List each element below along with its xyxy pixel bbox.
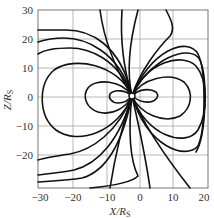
grid-lines — [38, 10, 208, 188]
y-axis-ticks: 30 20 10 0 −10 −20 — [16, 4, 34, 161]
y-tick: −10 — [16, 120, 34, 132]
x-axis-title: X/RS — [109, 205, 131, 218]
y-tick: 0 — [28, 91, 34, 103]
x-axis-ticks: −30 −20 −10 0 10 20 — [31, 191, 210, 203]
x-axis-title-sub: S — [126, 210, 130, 218]
x-tick: 10 — [168, 191, 180, 203]
x-tick: 0 — [137, 191, 143, 203]
y-tick: 30 — [22, 4, 34, 16]
x-axis-title-main: X/R — [109, 205, 127, 217]
plot-frame — [38, 10, 208, 188]
field-lines — [38, 10, 205, 188]
x-tick: 20 — [199, 191, 211, 203]
y-axis-title: Z/RS — [1, 90, 15, 110]
y-axis-title-sub: S — [6, 90, 15, 94]
y-tick: −20 — [16, 149, 34, 161]
planet-marker — [129, 93, 135, 99]
x-tick: −10 — [98, 191, 116, 203]
y-tick: 10 — [22, 62, 34, 74]
x-tick: −30 — [31, 191, 49, 203]
magnetosphere-field-line-chart: 30 20 10 0 −10 −20 −30 −20 −10 0 10 20 X… — [0, 0, 214, 218]
y-tick: 20 — [22, 33, 34, 45]
x-tick: −20 — [64, 191, 82, 203]
y-axis-title-main: Z/R — [1, 94, 13, 110]
